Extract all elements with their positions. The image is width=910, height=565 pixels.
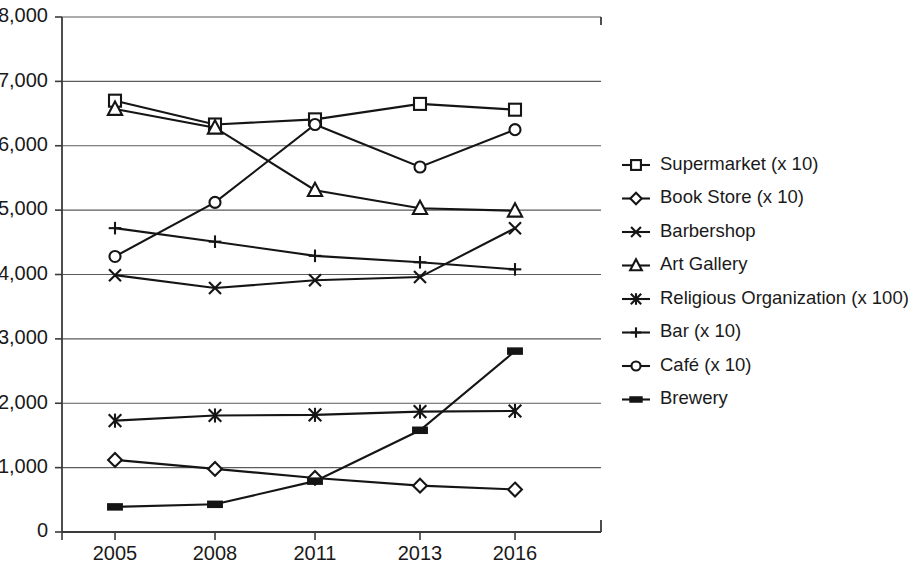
legend-label: Bar (x 10) [660,320,741,341]
data-point-marker-circle-open [414,161,425,172]
chart-canvas: 8,0007,0006,0005,0004,0003,0002,0001,000… [0,0,910,565]
data-point-marker-bar-solid [308,478,322,483]
data-point-marker-bar-solid [413,428,427,433]
legend-label: Religious Organization (x 100) [660,287,909,308]
data-point-marker-diamond-open [630,193,641,204]
data-point-marker-triangle-open [630,259,642,270]
legend-item[interactable]: Art Gallery [622,253,748,274]
data-point-marker-plus-cross [109,222,122,235]
series-book-store-x-10 [108,453,522,496]
data-point-marker-diamond-open [413,479,427,493]
y-tick-label: 6,000 [0,133,48,155]
y-tick-label: 2,000 [0,391,48,413]
data-point-marker-diamond-open [508,483,522,497]
data-point-marker-plus-cross [414,256,427,269]
data-point-marker-circle-open [209,197,220,208]
legend-item[interactable]: Book Store (x 10) [622,186,804,207]
series-line [115,228,515,269]
x-tick-label: 2011 [293,542,336,564]
data-series-group [108,95,522,510]
data-point-marker-x-cross [509,222,521,234]
data-point-marker-circle-open [509,124,520,135]
y-tick-label: 3,000 [0,326,48,348]
y-tick-label: 0 [37,519,48,541]
legend-item[interactable]: Supermarket (x 10) [622,153,818,174]
data-point-marker-circle-open [631,361,640,370]
series-religious-organization-x-100 [109,404,522,428]
data-point-marker-triangle-open [308,183,322,196]
y-tick-label: 5,000 [0,197,48,219]
x-tick-label: 2008 [193,542,238,564]
y-axis-tick-labels: 8,0007,0006,0005,0004,0003,0002,0001,000… [0,4,48,541]
data-point-marker-bar-solid [508,348,522,353]
data-point-marker-plus-cross [509,263,522,276]
legend-item[interactable]: Bar (x 10) [622,320,741,341]
x-axis-tick-labels: 20052008201120132016 [93,542,538,564]
data-point-marker-plus-cross [209,235,222,248]
data-point-marker-square-open [631,160,641,170]
legend-item[interactable]: Brewery [622,387,729,408]
data-point-marker-bar-solid [208,502,222,507]
data-point-marker-plus-cross [631,327,641,337]
legend: Supermarket (x 10)Book Store (x 10)Barbe… [622,153,909,409]
data-point-marker-square-open [509,104,521,116]
data-point-marker-diamond-open [108,453,122,467]
legend-label: Barbershop [660,220,756,241]
y-tick-label: 1,000 [0,455,48,477]
data-point-marker-plus-cross [309,250,322,263]
x-tick-label: 2005 [93,542,138,564]
x-tick-label: 2013 [398,542,443,564]
data-point-marker-bar-solid [108,504,122,509]
y-tick-label: 8,000 [0,4,48,26]
y-tick-label: 4,000 [0,262,48,284]
data-point-marker-bar-solid [630,397,641,401]
x-tick-label: 2016 [493,542,538,564]
legend-item[interactable]: Religious Organization (x 100) [622,287,909,308]
legend-label: Café (x 10) [660,354,752,375]
gridlines [62,17,601,532]
legend-item[interactable]: Café (x 10) [622,354,752,375]
data-point-marker-diamond-open [208,462,222,476]
series-bar-x-10 [109,222,522,276]
legend-label: Art Gallery [660,253,748,274]
legend-label: Book Store (x 10) [660,186,804,207]
legend-item[interactable]: Barbershop [622,220,756,241]
y-tick-label: 7,000 [0,69,48,91]
legend-label: Brewery [660,387,729,408]
data-point-marker-circle-open [109,251,120,262]
legend-label: Supermarket (x 10) [660,153,818,174]
line-chart: 8,0007,0006,0005,0004,0003,0002,0001,000… [0,0,910,565]
data-point-marker-square-open [414,98,426,110]
data-point-marker-circle-open [309,119,320,130]
